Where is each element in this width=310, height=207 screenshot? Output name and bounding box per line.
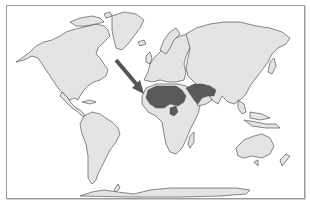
southeast-asia — [238, 100, 270, 120]
japan — [268, 58, 276, 74]
iceland — [138, 40, 146, 46]
indonesia — [244, 120, 280, 128]
antarctica — [80, 188, 250, 197]
arctic-islands — [70, 12, 112, 26]
australia — [236, 134, 274, 158]
north-america — [16, 24, 110, 100]
arrow-icon — [116, 60, 144, 94]
south-america — [80, 112, 120, 184]
madagascar — [188, 132, 194, 148]
highlighted-region-sahara — [146, 86, 186, 108]
new-zealand — [280, 154, 290, 166]
world-map — [0, 0, 310, 207]
tasmania — [254, 160, 258, 166]
caribbean — [82, 100, 96, 104]
antarctic-peninsula — [114, 184, 120, 192]
